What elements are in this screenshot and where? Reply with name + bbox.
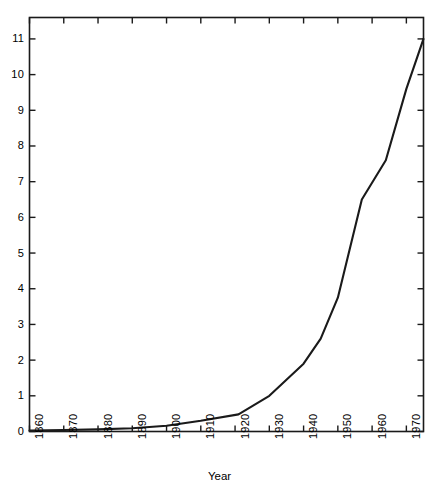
x-tick-label: 1870 bbox=[68, 414, 79, 439]
x-tick-label: 1960 bbox=[377, 414, 388, 439]
x-tick-label: 1950 bbox=[342, 414, 353, 439]
x-axis-tick-labels: 1860187018801890190019101920193019401950… bbox=[0, 0, 439, 493]
x-tick-label: 1930 bbox=[274, 414, 285, 439]
x-tick-label: 1910 bbox=[205, 414, 216, 439]
x-axis-title: Year bbox=[0, 470, 439, 482]
x-tick-label: 1860 bbox=[34, 414, 45, 439]
x-tick-label: 1890 bbox=[137, 414, 148, 439]
chart-figure: 01234567891011 1860187018801890190019101… bbox=[0, 0, 439, 493]
x-tick-label: 1940 bbox=[308, 414, 319, 439]
x-tick-label: 1920 bbox=[240, 414, 251, 439]
x-tick-label: 1880 bbox=[103, 414, 114, 439]
x-tick-label: 1900 bbox=[171, 414, 182, 439]
x-tick-label: 1970 bbox=[411, 414, 422, 439]
